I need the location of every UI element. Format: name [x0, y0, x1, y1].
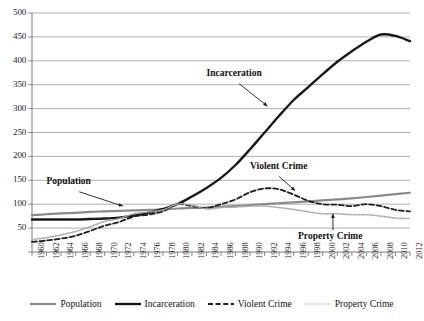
legend-label: Violent Crime: [238, 299, 292, 309]
x-tick-label: 1964: [65, 242, 75, 259]
x-tick-label: 1972: [123, 242, 133, 259]
x-tick-label: 1998: [312, 242, 322, 259]
x-tick-label: 2010: [399, 242, 409, 259]
annotation-incarceration: Incarceration: [206, 68, 261, 78]
x-tick-label: 2002: [341, 242, 351, 259]
x-tick-label: 2006: [370, 242, 380, 259]
annotation-arrow-head: [331, 214, 335, 218]
annotation-property-crime: Property Crime: [298, 231, 362, 241]
annotation-population: Population: [47, 176, 91, 186]
x-tick-label: 1968: [94, 242, 104, 259]
y-tick-label: 100: [0, 198, 26, 208]
x-tick-label: 1966: [80, 242, 90, 259]
legend-swatch-solid-gray: [30, 300, 56, 308]
legend-swatch-solid-black: [115, 300, 141, 308]
legend-item-violent-crime[interactable]: Violent Crime: [208, 299, 292, 309]
x-tick-label: 1970: [109, 242, 119, 259]
x-tick-label: 1960: [36, 242, 46, 259]
y-tick-label: 350: [0, 79, 26, 89]
y-tick-label: 150: [0, 174, 26, 184]
series-line-incarceration: [32, 34, 410, 219]
x-tick-label: 1992: [269, 242, 279, 259]
annotation-arrow-head: [118, 203, 123, 207]
chart-legend: PopulationIncarcerationViolent CrimeProp…: [0, 296, 424, 312]
y-tick-label: 50: [0, 222, 26, 232]
y-tick-label: 450: [0, 31, 26, 41]
x-tick-label: 1962: [51, 242, 61, 259]
y-tick-label: 500: [0, 7, 26, 17]
x-tick-label: 2004: [356, 242, 366, 259]
legend-item-incarceration[interactable]: Incarceration: [115, 299, 195, 309]
x-tick-label: 2008: [385, 242, 395, 259]
x-tick-label: 2012: [414, 242, 424, 259]
plot-canvas: [0, 0, 424, 321]
series-layer: [32, 34, 410, 242]
legend-label: Property Crime: [335, 299, 394, 309]
y-tick-label: 250: [0, 127, 26, 137]
x-tick-label: 1986: [225, 242, 235, 259]
x-tick-label: 1978: [167, 242, 177, 259]
legend-label: Incarceration: [145, 299, 195, 309]
x-tick-label: 1988: [240, 242, 250, 259]
x-tick-label: 1996: [298, 242, 308, 259]
y-tick-label: 300: [0, 103, 26, 113]
legend-label: Population: [60, 299, 101, 309]
x-tick-label: 2000: [327, 242, 337, 259]
line-chart: 50100150200250300350400450500 1960196219…: [0, 0, 424, 321]
legend-swatch-dashed-black: [208, 300, 234, 308]
legend-swatch-dotted-gray: [305, 300, 331, 308]
x-tick-label: 1980: [181, 242, 191, 259]
y-tick-label: 200: [0, 150, 26, 160]
annotation-arrow-line: [239, 84, 267, 106]
x-tick-label: 1994: [283, 242, 293, 259]
x-tick-label: 1974: [138, 242, 148, 259]
legend-item-property-crime[interactable]: Property Crime: [305, 299, 394, 309]
legend-item-population[interactable]: Population: [30, 299, 101, 309]
y-tick-label: 400: [0, 55, 26, 65]
x-tick-label: 1982: [196, 242, 206, 259]
x-tick-label: 1976: [152, 242, 162, 259]
annotation-violent-crime: Violent Crime: [250, 161, 307, 171]
gridlines: [32, 13, 410, 228]
x-tick-label: 1990: [254, 242, 264, 259]
x-tick-label: 1984: [210, 242, 220, 259]
